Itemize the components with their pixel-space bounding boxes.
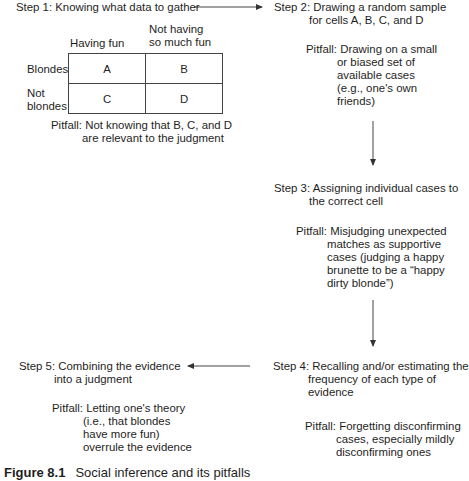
col-header-line: Not having (149, 23, 211, 36)
pitfall-line: Pitfall: Letting one's theory (52, 402, 192, 415)
figure-title: Social inference and its pitfalls (75, 465, 250, 480)
pitfall-line: dirty blonde”) (296, 277, 447, 290)
step3-title: Step 3: Assigning individual cases to th… (274, 182, 458, 208)
step1-title: Step 1: Knowing what data to gather (16, 1, 200, 14)
pitfall-line: Pitfall: Forgetting disconfirming (305, 420, 461, 433)
pitfall-line: (e.g., one's own (306, 82, 437, 95)
pitfall-line: matches as supportive (296, 238, 447, 251)
pitfall-line: disconfirming ones (305, 446, 461, 459)
step1-pitfall: Pitfall: Not knowing that B, C, and D ar… (51, 119, 232, 145)
title-line: frequency of each type of (273, 373, 469, 386)
pitfall-line: or biased set of (306, 56, 437, 69)
step4-pitfall: Pitfall: Forgetting disconfirming cases,… (305, 420, 461, 459)
step5-title: Step 5: Combining the evidence into a ju… (19, 360, 180, 386)
pitfall-line: friends) (306, 95, 437, 108)
row-header-not-blondes: Not blondes (27, 87, 67, 113)
pitfall-line: Pitfall: Drawing on a small (306, 43, 437, 56)
cell-c: C (69, 84, 146, 114)
title-line: for cells A, B, C, and D (274, 14, 446, 27)
pitfall-line: Pitfall: Misjudging unexpected (296, 225, 447, 238)
title-line: Step 5: Combining the evidence (19, 360, 180, 373)
title-line: into a judgment (19, 373, 180, 386)
table-row: A B (69, 54, 223, 84)
figure-number: Figure 8.1 (4, 465, 65, 480)
title-line: Step 4: Recalling and/or estimating the (273, 360, 469, 373)
cell-b: B (146, 54, 223, 84)
col-header-not-having-fun: Not having so much fun (149, 23, 211, 49)
col-header-line: so much fun (149, 36, 211, 49)
step2-title: Step 2: Drawing a random sample for cell… (274, 1, 446, 27)
row-header-line: blondes (27, 100, 67, 113)
step5-pitfall: Pitfall: Letting one's theory (i.e., tha… (52, 402, 192, 454)
pitfall-line: (i.e., that blondes (52, 415, 192, 428)
pitfall-line: brunette to be a “happy (296, 264, 447, 277)
title-line: evidence (273, 386, 469, 399)
row-header-blondes: Blondes (27, 63, 68, 76)
cell-d: D (146, 84, 223, 114)
title-line: Step 3: Assigning individual cases to (274, 182, 458, 195)
step4-title: Step 4: Recalling and/or estimating the … (273, 360, 469, 399)
pitfall-line: have more fun) (52, 428, 192, 441)
pitfall-line: available cases (306, 69, 437, 82)
title-line: Step 2: Drawing a random sample (274, 1, 446, 14)
title-line: the correct cell (274, 195, 458, 208)
contingency-table: A B C D (68, 53, 223, 114)
cell-a: A (69, 54, 146, 84)
step3-pitfall: Pitfall: Misjudging unexpected matches a… (296, 225, 447, 290)
pitfall-line: overrule the evidence (52, 441, 192, 454)
col-header-having-fun: Having fun (70, 37, 124, 50)
step2-pitfall: Pitfall: Drawing on a small or biased se… (306, 43, 437, 108)
pitfall-line: cases, especially mildly (305, 433, 461, 446)
pitfall-line: Pitfall: Not knowing that B, C, and D (51, 119, 232, 132)
row-header-line: Not (27, 87, 67, 100)
pitfall-line: are relevant to the judgment (51, 132, 232, 145)
pitfall-line: cases (judging a happy (296, 251, 447, 264)
figure-caption: Figure 8.1Social inference and its pitfa… (4, 465, 250, 480)
table-row: C D (69, 84, 223, 114)
